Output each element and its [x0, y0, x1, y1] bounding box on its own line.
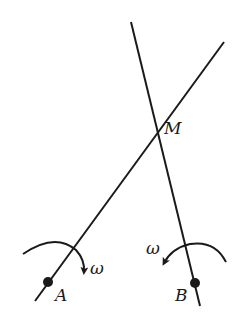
kinematics-diagram: M A B ω ω [0, 0, 249, 320]
point-A-label: A [55, 287, 67, 304]
diagram-canvas [0, 0, 249, 320]
pivot-B-dot [190, 278, 200, 288]
rod-B-line [131, 22, 200, 306]
point-M-label: M [164, 120, 181, 137]
rod-A-line [35, 42, 224, 301]
point-B-label: B [175, 287, 188, 304]
pivot-A-dot [43, 277, 53, 287]
rotation-arrow-B-icon [164, 243, 226, 263]
omega-A-label: ω [90, 260, 104, 277]
omega-B-label: ω [146, 240, 160, 257]
